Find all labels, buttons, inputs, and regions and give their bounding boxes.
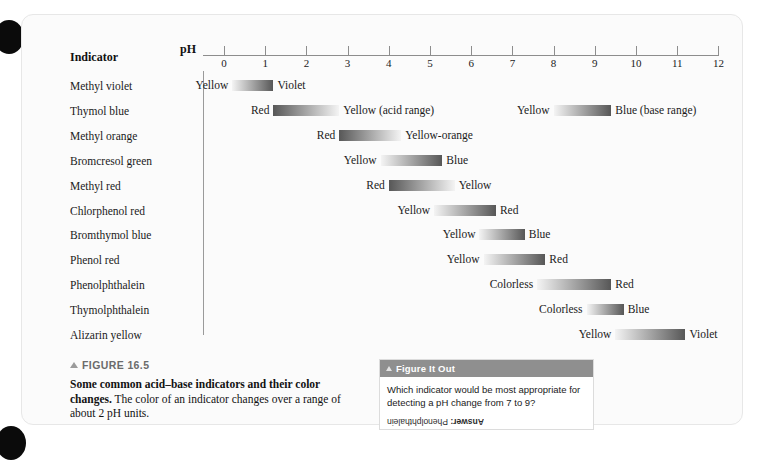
ph-indicator-chart: Indicator pH 0123456789101112 Methyl vio… bbox=[22, 15, 744, 345]
indicator-row: YellowRed bbox=[22, 204, 744, 218]
ph-axis-line bbox=[203, 55, 719, 56]
acid-color-label: Yellow bbox=[447, 253, 480, 266]
axis-tick bbox=[512, 46, 513, 55]
axis-tick bbox=[677, 46, 678, 55]
axis-tick bbox=[430, 46, 431, 55]
base-color-label: Yellow (acid range) bbox=[343, 104, 434, 117]
axis-tick bbox=[718, 46, 719, 55]
axis-tick-label: 5 bbox=[417, 57, 443, 69]
figure-number: FIGURE 16.5 bbox=[82, 359, 149, 371]
base-color-label: Violet bbox=[689, 328, 717, 341]
color-transition-bar bbox=[434, 205, 496, 216]
base-color-label: Blue bbox=[446, 154, 468, 167]
base-color-label: Red bbox=[500, 204, 519, 217]
figure-caption: FIGURE 16.5 Some common acid–base indica… bbox=[70, 359, 360, 421]
color-transition-bar bbox=[339, 130, 401, 141]
binder-hole-mark-bottom bbox=[0, 426, 26, 460]
axis-tick-label: 6 bbox=[458, 57, 484, 69]
acid-color-label: Yellow bbox=[443, 228, 476, 241]
figure-it-out-title: Figure It Out bbox=[396, 363, 455, 374]
base-color-label: Blue bbox=[529, 228, 551, 241]
color-transition-bar bbox=[479, 229, 524, 240]
indicator-row: YellowRed bbox=[22, 253, 744, 267]
color-transition-bar bbox=[389, 180, 455, 191]
color-transition-bar bbox=[537, 279, 611, 290]
acid-color-label: Red bbox=[251, 104, 270, 117]
indicator-row: RedYellow-orange bbox=[22, 129, 744, 143]
acid-color-label: Colorless bbox=[539, 303, 582, 316]
axis-tick-label: 2 bbox=[293, 57, 319, 69]
acid-color-label: Yellow bbox=[196, 79, 229, 92]
base-color-label: Yellow-orange bbox=[405, 129, 473, 142]
axis-tick-label: 12 bbox=[705, 57, 731, 69]
indicator-row: YellowViolet bbox=[22, 79, 744, 93]
base-color-label: Blue (base range) bbox=[615, 104, 696, 117]
triangle-up-icon-small bbox=[386, 366, 392, 371]
acid-color-label: Yellow bbox=[517, 104, 550, 117]
acid-color-label: Colorless bbox=[490, 278, 533, 291]
color-transition-bar bbox=[273, 105, 339, 116]
axis-tick-label: 0 bbox=[211, 57, 237, 69]
base-color-label: Yellow bbox=[459, 179, 492, 192]
axis-tick bbox=[389, 46, 390, 55]
axis-tick-label: 1 bbox=[252, 57, 278, 69]
indicator-row: YellowViolet bbox=[22, 328, 744, 342]
axis-tick bbox=[224, 46, 225, 55]
axis-tick-label: 3 bbox=[335, 57, 361, 69]
indicator-row: RedYellow (acid range)YellowBlue (base r… bbox=[22, 104, 744, 118]
base-color-label: Blue bbox=[628, 303, 650, 316]
triangle-up-icon bbox=[70, 362, 78, 368]
acid-color-label: Yellow bbox=[397, 204, 430, 217]
figure-card: Indicator pH 0123456789101112 Methyl vio… bbox=[21, 14, 743, 425]
axis-tick bbox=[471, 46, 472, 55]
base-color-label: Violet bbox=[277, 79, 305, 92]
column-header-indicator: Indicator bbox=[70, 51, 118, 63]
caption-body: Some common acid–base indicators and the… bbox=[70, 377, 360, 421]
color-transition-bar bbox=[615, 329, 685, 340]
axis-tick-label: 9 bbox=[582, 57, 608, 69]
answer-text: Phenolphthalein bbox=[387, 417, 450, 427]
indicator-row: RedYellow bbox=[22, 179, 744, 193]
axis-tick bbox=[595, 46, 596, 55]
axis-tick bbox=[636, 46, 637, 55]
axis-tick bbox=[306, 46, 307, 55]
axis-tick-label: 8 bbox=[541, 57, 567, 69]
color-transition-bar bbox=[232, 80, 273, 91]
axis-tick bbox=[348, 46, 349, 55]
acid-color-label: Yellow bbox=[344, 154, 377, 167]
base-color-label: Red bbox=[549, 253, 568, 266]
indicator-row: YellowBlue bbox=[22, 154, 744, 168]
acid-color-label: Yellow bbox=[579, 328, 612, 341]
axis-tick-label: 4 bbox=[376, 57, 402, 69]
indicator-row: YellowBlue bbox=[22, 228, 744, 242]
axis-tick-label: 7 bbox=[499, 57, 525, 69]
axis-label-ph: pH bbox=[180, 43, 196, 55]
axis-tick-label: 10 bbox=[623, 57, 649, 69]
acid-color-label: Red bbox=[366, 179, 385, 192]
color-transition-bar bbox=[554, 105, 612, 116]
color-transition-bar bbox=[484, 254, 546, 265]
figure-it-out-header: Figure It Out bbox=[380, 360, 593, 377]
acid-color-label: Red bbox=[317, 129, 336, 142]
color-transition-bar bbox=[587, 304, 624, 315]
axis-tick-label: 11 bbox=[664, 57, 690, 69]
indicator-row: ColorlessRed bbox=[22, 278, 744, 292]
figure-it-out-question: Which indicator would be most appropriat… bbox=[380, 377, 593, 411]
axis-tick bbox=[554, 46, 555, 55]
color-transition-bar bbox=[381, 155, 443, 166]
axis-tick bbox=[265, 46, 266, 55]
figure-it-out-box: Figure It Out Which indicator would be m… bbox=[379, 359, 594, 430]
base-color-label: Red bbox=[615, 278, 634, 291]
answer-label: Answer: bbox=[450, 417, 484, 427]
indicator-row: ColorlessBlue bbox=[22, 303, 744, 317]
figure-number-line: FIGURE 16.5 bbox=[70, 359, 360, 371]
figure-it-out-answer: Answer: Phenolphthalein bbox=[380, 411, 593, 429]
